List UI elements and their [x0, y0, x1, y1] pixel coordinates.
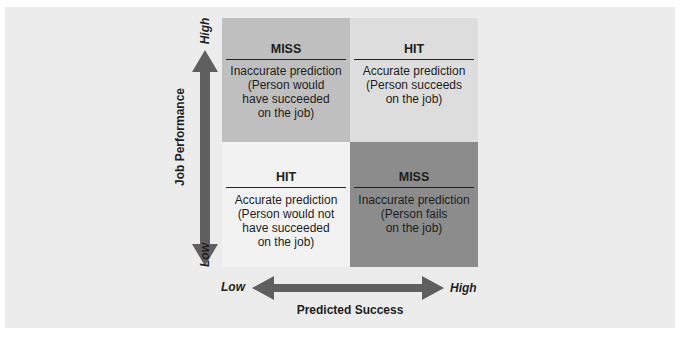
quadrant-title: MISS — [226, 42, 346, 60]
description-line: Accurate prediction — [224, 193, 348, 207]
description-line: Inaccurate prediction — [352, 193, 476, 207]
description-line: have succeeded — [224, 221, 348, 235]
description-line: Accurate prediction — [352, 64, 476, 78]
quadrant-bottom-left-hit: HIT Accurate prediction (Person would no… — [222, 142, 350, 267]
x-axis-title: Predicted Success — [290, 303, 410, 317]
prediction-matrix: MISS Inaccurate prediction (Person would… — [222, 18, 478, 267]
description-line: have succeeded — [224, 92, 348, 106]
description-line: (Person would not — [224, 207, 348, 221]
y-axis-low-label: Low — [198, 240, 212, 270]
y-axis-high-label: High — [198, 16, 212, 46]
description-line: Inaccurate prediction — [224, 64, 348, 78]
job-performance-arrow — [192, 50, 218, 266]
description-line: (Person succeeds — [352, 78, 476, 92]
description-line: (Person fails — [352, 207, 476, 221]
description-line: on the job) — [352, 92, 476, 106]
predicted-success-arrow — [252, 276, 444, 300]
quadrant-title: HIT — [226, 170, 346, 188]
quadrant-description: Accurate prediction (Person would not ha… — [224, 193, 348, 249]
description-line: on the job) — [352, 221, 476, 235]
quadrant-description: Accurate prediction (Person succeeds on … — [352, 64, 476, 106]
quadrant-top-left-miss: MISS Inaccurate prediction (Person would… — [222, 18, 350, 142]
description-line: on the job) — [224, 106, 348, 120]
quadrant-title: MISS — [354, 170, 474, 188]
quadrant-description: Inaccurate prediction (Person would have… — [224, 64, 348, 120]
quadrant-description: Inaccurate prediction (Person fails on t… — [352, 193, 476, 235]
description-line: (Person would — [224, 78, 348, 92]
description-line: on the job) — [224, 235, 348, 249]
y-axis-title: Job Performance — [173, 77, 187, 197]
quadrant-title: HIT — [354, 42, 474, 60]
x-axis-low-label: Low — [221, 280, 245, 294]
quadrant-bottom-right-miss: MISS Inaccurate prediction (Person fails… — [350, 142, 478, 267]
x-axis-high-label: High — [450, 281, 477, 295]
quadrant-top-right-hit: HIT Accurate prediction (Person succeeds… — [350, 18, 478, 142]
